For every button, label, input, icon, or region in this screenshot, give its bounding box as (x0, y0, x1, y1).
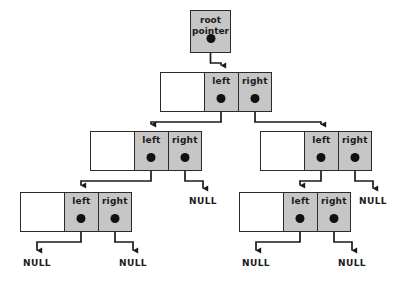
node-left-pointer-cell: left (304, 132, 337, 170)
node-right-pointer-cell: right (98, 193, 131, 231)
node-left-pointer-label: left (291, 197, 309, 206)
node-left-pointer-cell: left (134, 132, 167, 170)
node-right-pointer-cell: right (168, 132, 201, 170)
root-pointer-box: root pointer (190, 10, 231, 53)
tree-node: leftright (260, 131, 372, 171)
node-right-pointer-cell: right (338, 132, 371, 170)
node-data-cell (91, 132, 134, 170)
node-left-pointer-label: left (212, 77, 230, 86)
node-left-pointer-cell: left (64, 193, 97, 231)
node-right-pointer-label: right (172, 136, 198, 145)
node-left-pointer-label: left (312, 136, 330, 145)
tree-node: leftright (20, 192, 132, 232)
node-left-pointer-label: left (142, 136, 160, 145)
null-label: NULL (338, 258, 366, 268)
tree-node: leftright (239, 192, 351, 232)
null-label: NULL (189, 196, 217, 206)
node-data-cell (261, 132, 304, 170)
root-pointer-dot (206, 34, 215, 43)
node-right-pointer-cell: right (317, 193, 350, 231)
node-left-pointer-dot (217, 94, 226, 103)
node-right-pointer-dot (180, 153, 189, 162)
null-label: NULL (119, 258, 147, 268)
tree-node: leftright (160, 72, 272, 112)
node-right-pointer-dot (350, 153, 359, 162)
tree-node: leftright (90, 131, 202, 171)
node-left-pointer-label: left (72, 197, 90, 206)
node-data-cell (240, 193, 283, 231)
root-pointer-label-line1: root (200, 15, 221, 26)
node-right-pointer-dot (250, 94, 259, 103)
node-right-pointer-label: right (321, 197, 347, 206)
node-right-pointer-cell: right (238, 73, 271, 111)
diagram-canvas: root pointer leftrightleftrightleftright… (0, 0, 408, 281)
node-left-pointer-dot (147, 153, 156, 162)
null-label: NULL (359, 196, 387, 206)
node-left-pointer-cell: left (204, 73, 237, 111)
node-left-pointer-cell: left (283, 193, 316, 231)
node-left-pointer-dot (77, 214, 86, 223)
node-right-pointer-label: right (102, 197, 128, 206)
node-left-pointer-dot (317, 153, 326, 162)
node-data-cell (21, 193, 64, 231)
node-left-pointer-dot (296, 214, 305, 223)
node-right-pointer-dot (329, 214, 338, 223)
node-right-pointer-dot (110, 214, 119, 223)
node-data-cell (161, 73, 204, 111)
null-label: NULL (242, 258, 270, 268)
node-right-pointer-label: right (242, 77, 268, 86)
node-right-pointer-label: right (342, 136, 368, 145)
null-label: NULL (23, 258, 51, 268)
